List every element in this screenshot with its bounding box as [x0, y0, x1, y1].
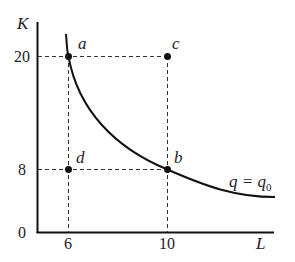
y-tick-0: 0: [18, 224, 26, 241]
point-d: [65, 166, 72, 173]
point-b: [164, 166, 171, 173]
isoquant-chart: a c d b K L 20 8 0 6 10 q = q0: [0, 0, 295, 262]
label-b: b: [174, 148, 183, 167]
x-tick-10: 10: [159, 235, 175, 252]
guide-lines: [38, 56, 168, 232]
label-d: d: [76, 148, 85, 167]
y-tick-20: 20: [14, 48, 30, 65]
y-axis-label: K: [16, 14, 30, 33]
y-tick-8: 8: [18, 161, 26, 178]
curve-label-main: q = q: [229, 172, 266, 191]
point-a: [65, 53, 72, 60]
curve-label-sub: 0: [266, 181, 272, 193]
label-c: c: [172, 34, 180, 53]
point-c: [164, 53, 171, 60]
curve-label: q = q0: [229, 172, 272, 193]
x-tick-6: 6: [64, 235, 72, 252]
label-a: a: [78, 34, 87, 53]
x-axis-label: L: [255, 234, 265, 253]
